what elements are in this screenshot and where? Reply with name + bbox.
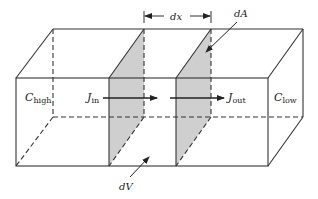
visible-edges	[16, 29, 303, 166]
dV-pointer-arrow	[130, 157, 149, 177]
dA-label: dA	[234, 8, 248, 19]
diffusion-box-diagram: Chigh Jin Jout Clow dx dA dV	[0, 0, 318, 199]
j-out-label: Jout	[226, 91, 246, 105]
dx-label: dx	[170, 11, 182, 22]
c-low-label: Clow	[274, 91, 297, 105]
c-high-label: Chigh	[25, 91, 51, 105]
hidden-edges	[16, 29, 303, 166]
dV-label: dV	[119, 181, 134, 192]
j-in-label: Jin	[85, 91, 99, 105]
